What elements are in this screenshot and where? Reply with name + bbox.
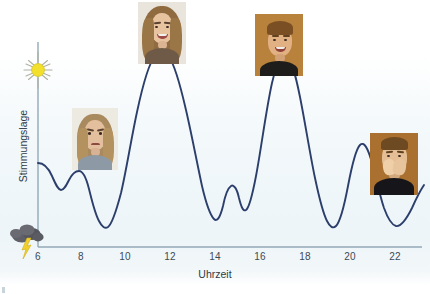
page-edge-mark bbox=[2, 287, 5, 293]
photo-smiling-girl bbox=[138, 2, 186, 64]
x-tick-22: 22 bbox=[384, 251, 406, 262]
x-tick-14: 14 bbox=[204, 251, 226, 262]
photo-annoyed-girl bbox=[72, 108, 118, 170]
x-tick-20: 20 bbox=[339, 251, 361, 262]
x-tick-18: 18 bbox=[294, 251, 316, 262]
x-tick-6: 6 bbox=[27, 251, 49, 262]
photo-smiling-boy bbox=[255, 14, 303, 76]
mood-curve-figure: 6 8 10 12 14 16 18 20 22 Uhrzeit Stimmun… bbox=[0, 0, 430, 294]
plot-svg bbox=[0, 0, 430, 294]
x-tick-10: 10 bbox=[114, 251, 136, 262]
photo-yawning-person bbox=[370, 133, 418, 195]
y-axis-label: Stimmungslage bbox=[17, 91, 29, 201]
sun-icon bbox=[24, 52, 52, 88]
x-tick-16: 16 bbox=[249, 251, 271, 262]
x-tick-8: 8 bbox=[70, 251, 92, 262]
x-axis-label: Uhrzeit bbox=[0, 268, 430, 280]
x-tick-12: 12 bbox=[159, 251, 181, 262]
